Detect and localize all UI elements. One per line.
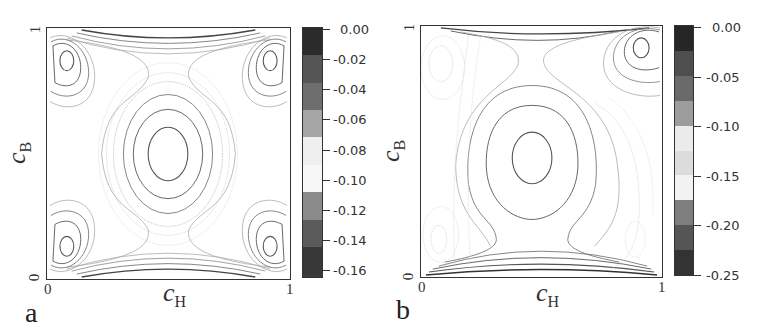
panel-letter-b: b	[396, 296, 410, 324]
colorbar-b-seg	[675, 101, 693, 126]
panel-b: 1 0 0 1 cH cB b 0.00 -0.05 -0.10 -0.15 -…	[0, 0, 769, 332]
cb-b-tick	[694, 225, 701, 226]
y-axis-title-main-b: c	[376, 151, 405, 163]
colorbar-b-seg	[675, 175, 693, 200]
colorbar-b-seg	[675, 76, 693, 101]
y-tick-min-b: 0	[401, 273, 416, 281]
colorbar-b-seg	[675, 225, 693, 250]
cb-b-label: -0.25	[706, 269, 740, 282]
cb-b-tick	[694, 77, 701, 78]
cb-b-tick	[694, 126, 701, 127]
colorbar-b-seg	[675, 51, 693, 76]
x-tick-min-b: 0	[418, 280, 426, 295]
cb-b-tick	[694, 176, 701, 177]
cb-b-tick	[694, 27, 701, 28]
colorbar-b-seg	[675, 250, 693, 275]
x-axis-title-sub-b: H	[548, 293, 560, 310]
cb-b-label: -0.10	[706, 120, 740, 133]
colorbar-b	[674, 25, 694, 276]
colorbar-b-seg	[675, 200, 693, 225]
contour-plot-b	[420, 25, 663, 278]
cb-b-tick	[694, 275, 701, 276]
x-tick-max-b: 1	[658, 280, 666, 295]
cb-b-label: -0.20	[706, 219, 740, 232]
contour-lines-b	[421, 26, 662, 277]
y-axis-title-sub-b: B	[391, 140, 408, 151]
cb-b-label: -0.15	[706, 170, 740, 183]
colorbar-b-seg	[675, 151, 693, 176]
y-tick-max-b: 1	[402, 24, 417, 32]
cb-b-label: 0.00	[712, 21, 741, 34]
y-axis-title-b: cB	[378, 140, 408, 162]
x-axis-title-main-b: c	[536, 278, 548, 307]
x-axis-title-b: cH	[536, 280, 559, 310]
cb-b-label: -0.05	[706, 71, 740, 84]
colorbar-b-seg	[675, 126, 693, 151]
colorbar-b-seg	[675, 26, 693, 51]
